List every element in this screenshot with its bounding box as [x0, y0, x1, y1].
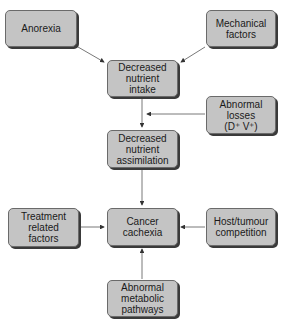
node-host-tumour-competition: Host/tumour competition [206, 208, 276, 246]
node-label: Cancer cachexia [123, 216, 162, 238]
node-label: Decreased nutrient intake [118, 62, 166, 95]
node-anorexia: Anorexia [5, 10, 77, 47]
node-cancer-cachexia: Cancer cachexia [107, 208, 178, 246]
node-decreased-nutrient-intake: Decreased nutrient intake [107, 60, 178, 97]
node-label: Anorexia [21, 23, 60, 34]
node-label: Decreased nutrient assimilation [116, 133, 168, 166]
node-label: Treatment related factors [21, 211, 66, 244]
edge-anorexia-intake [78, 47, 104, 62]
node-label: Mechanical factors [216, 18, 267, 40]
node-abnormal-losses: Abnormal losses (D⁺ V⁺) [206, 96, 276, 134]
edge-mechanical-intake [181, 47, 205, 62]
node-label: Abnormal metabolic pathways [121, 282, 164, 315]
node-label: Abnormal losses (D⁺ V⁺) [220, 99, 263, 132]
node-label: Host/tumour competition [214, 216, 268, 238]
node-decreased-nutrient-assimilation: Decreased nutrient assimilation [107, 130, 178, 168]
node-abnormal-metabolic-pathways: Abnormal metabolic pathways [107, 280, 178, 317]
node-mechanical-factors: Mechanical factors [206, 10, 276, 47]
node-treatment-related-factors: Treatment related factors [8, 208, 79, 247]
